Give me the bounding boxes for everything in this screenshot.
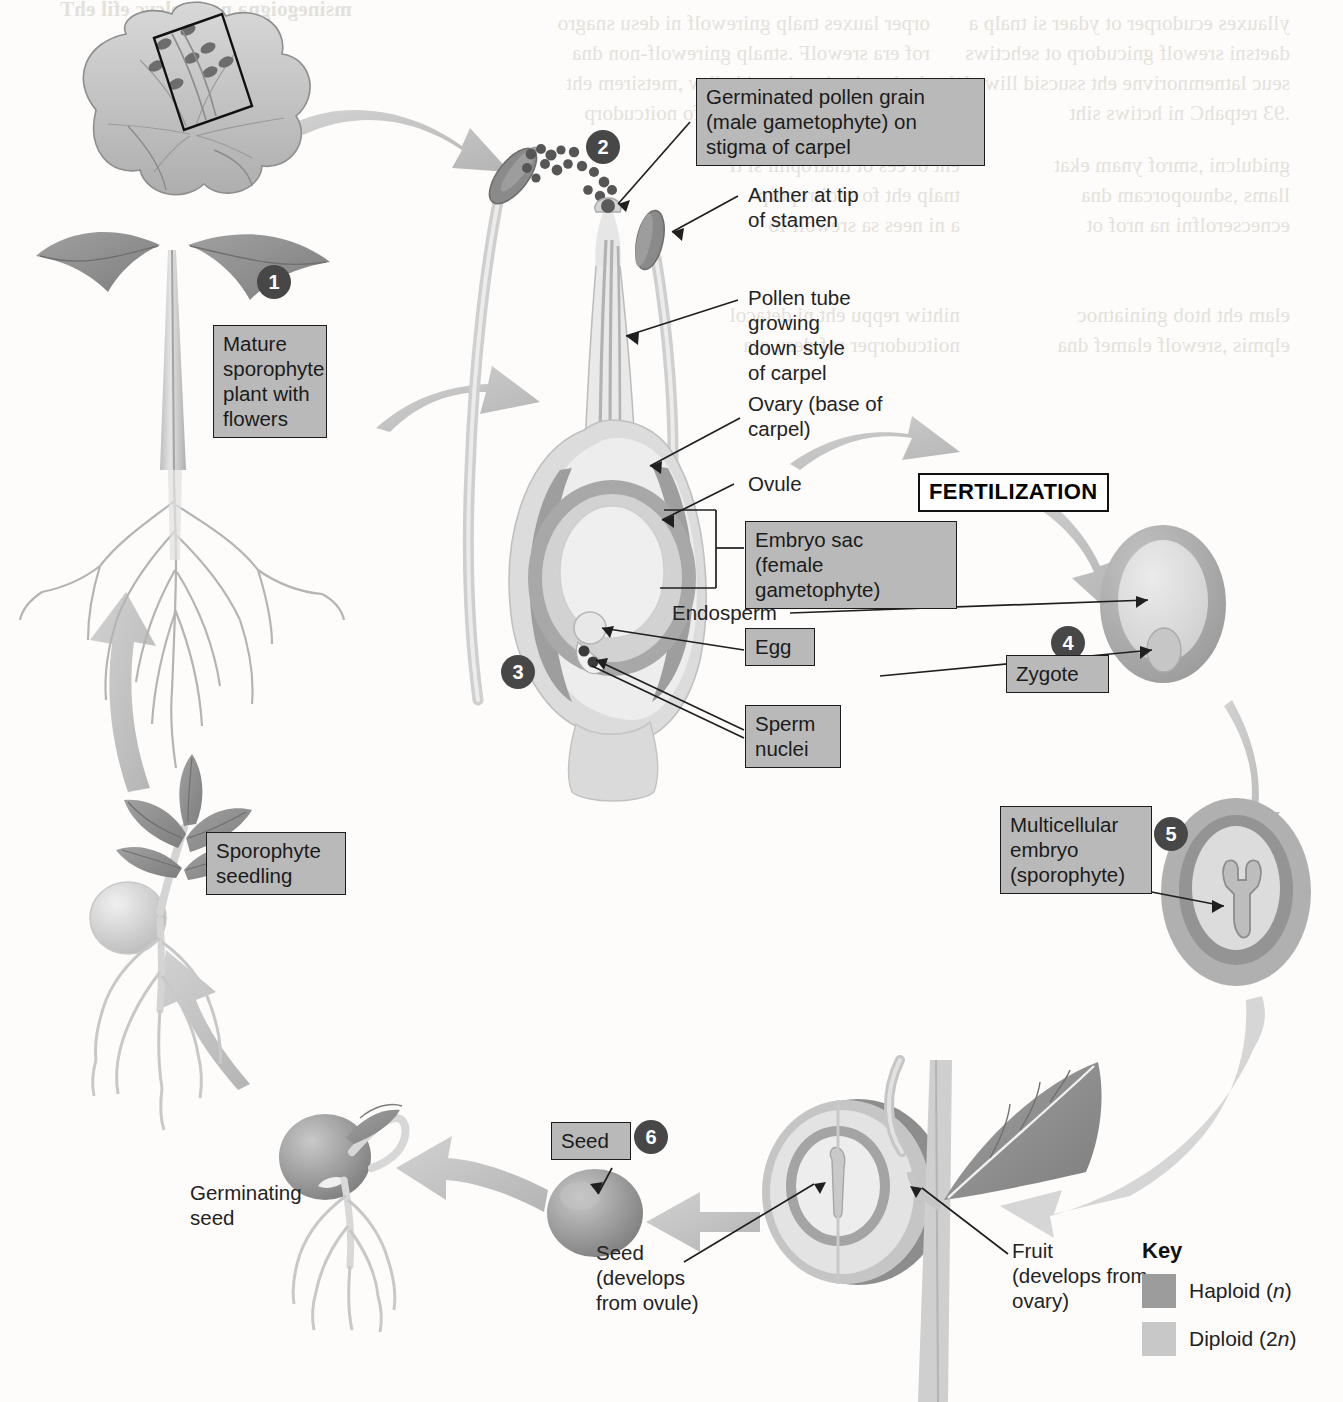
key-row-diploid: Diploid (2n) (1142, 1322, 1296, 1356)
cycle-arrow-germinating-to-seedling (158, 950, 250, 1090)
key-swatch-diploid (1142, 1322, 1176, 1356)
key-label-haploid: Haploid (n) (1189, 1279, 1292, 1303)
label-ovary: Ovary (base of carpel) (748, 391, 882, 441)
key-swatch-haploid (1142, 1274, 1176, 1308)
key-row-haploid: Haploid (n) (1142, 1274, 1296, 1308)
label-egg: Egg (745, 628, 815, 666)
label-germinated-pollen-grain: Germinated pollen grain (male gametophyt… (696, 78, 985, 166)
label-endosperm: Endosperm (672, 600, 777, 625)
cycle-arrow-seedling-to-mature (90, 592, 156, 792)
key-legend: Key Haploid (n) Diploid (2n) (1142, 1238, 1296, 1370)
cycle-arrow-seed-to-germinating (396, 1136, 548, 1212)
step-marker-6: 6 (634, 1120, 668, 1154)
ovule-endosperm-zygote-illustration (1100, 525, 1226, 683)
label-embryo-sac: Embryo sac (female gametophyte) (745, 521, 957, 609)
label-ovule: Ovule (748, 471, 802, 496)
angiosperm-life-cycle-diagram: msinegoigna na fo elcyc efil ehT orper l… (0, 0, 1343, 1402)
label-fruit-develops-from-ovary: Fruit (develops from ovary) (1012, 1238, 1148, 1313)
key-label-diploid: Diploid (2n) (1189, 1327, 1296, 1351)
step-marker-3: 3 (501, 655, 535, 689)
cycle-arrow-1-to-2 (296, 110, 510, 172)
step-marker-2: 2 (586, 130, 620, 164)
label-fertilization: FERTILIZATION (918, 473, 1109, 512)
label-seed-develops-from-ovule: Seed (develops from ovule) (596, 1240, 699, 1315)
label-germinating-seed: Germinating seed (190, 1180, 302, 1230)
label-anther-at-tip-of-stamen: Anther at tip of stamen (748, 182, 859, 232)
label-sperm-nuclei: Sperm nuclei (745, 705, 841, 768)
step-marker-1: 1 (257, 265, 291, 299)
label-seed: Seed (551, 1122, 631, 1160)
stamen-carpel-closeup-illustration (468, 141, 706, 801)
label-sporophyte-seedling: Sporophyte seedling (206, 832, 346, 895)
label-zygote: Zygote (1006, 655, 1109, 693)
cycle-arrow-2-to-3 (376, 366, 540, 432)
step-marker-5: 5 (1154, 817, 1188, 851)
label-multicellular-embryo: Multicellular embryo (sporophyte) (1000, 806, 1152, 894)
label-pollen-tube: Pollen tube growing down style of carpel (748, 285, 851, 385)
label-mature-sporophyte-plant: Mature sporophyte plant with flowers (213, 325, 327, 438)
key-title: Key (1142, 1238, 1296, 1264)
